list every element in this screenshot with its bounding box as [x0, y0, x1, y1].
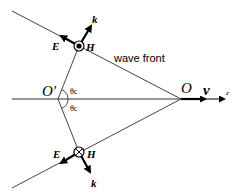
wave-front-lower [12, 99, 181, 188]
E-lower-label: E [52, 148, 60, 160]
cherenkov-diagram: wave front O O′ v z θc θc E H k E H k [0, 0, 237, 194]
O-prime-label: O′ [42, 83, 57, 99]
theta-arc-upper [62, 90, 68, 99]
H-dot [76, 43, 81, 48]
theta-lower-label: θc [70, 104, 78, 113]
k-lower-label: k [91, 177, 97, 189]
wave-front-label: wave front [113, 52, 165, 64]
E-upper-label: E [51, 40, 59, 52]
k-upper-label: k [92, 13, 98, 25]
O-label: O [181, 80, 192, 96]
theta-arc-lower [62, 99, 68, 108]
H-lower-label: H [86, 148, 96, 160]
H-upper-label: H [85, 41, 95, 53]
z-axis-label: z [225, 89, 229, 97]
velocity-label: v [203, 82, 210, 98]
theta-upper-label: θc [70, 87, 78, 96]
